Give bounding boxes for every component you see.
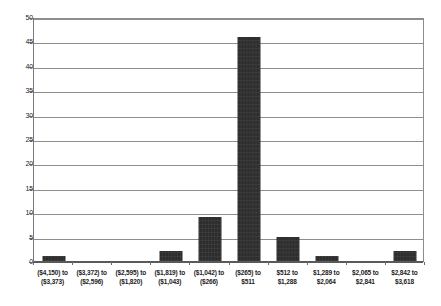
x-tick-mark — [385, 262, 386, 265]
bar-slot — [73, 19, 112, 261]
x-tick-mark — [189, 262, 190, 265]
x-axis-label-line1: ($3,372) to — [72, 268, 111, 277]
x-tick-mark — [111, 262, 112, 265]
x-axis-labels: ($4,150) to($3,373)($3,372) to($2,596)($… — [33, 268, 424, 294]
x-axis-label: ($265) to$511 — [229, 268, 268, 286]
bar-slot — [386, 19, 425, 261]
x-tick-mark — [33, 262, 34, 265]
x-axis-label-line2: ($266) — [189, 277, 228, 286]
x-axis-label-line2: ($1,043) — [150, 277, 189, 286]
x-axis-label: ($4,150) to($3,373) — [33, 268, 72, 286]
x-axis-label: $1,289 to$2,064 — [307, 268, 346, 286]
x-axis-label-line2: $3,618 — [385, 277, 424, 286]
x-axis-label-line2: $2,841 — [346, 277, 385, 286]
bar[interactable] — [277, 237, 300, 261]
bar-slot — [190, 19, 229, 261]
x-axis-label-line1: ($265) to — [229, 268, 268, 277]
x-axis-label-line2: ($3,373) — [33, 277, 72, 286]
x-tick-mark — [150, 262, 151, 265]
x-tick-mark — [268, 262, 269, 265]
bar-slot — [308, 19, 347, 261]
x-axis-label-line2: ($2,596) — [72, 277, 111, 286]
x-axis-label-line1: $1,289 to — [307, 268, 346, 277]
x-axis-label: ($1,819) to($1,043) — [150, 268, 189, 286]
x-axis-label: ($2,595) to($1,820) — [111, 268, 150, 286]
y-axis: 05101520253035404550 — [0, 0, 33, 306]
x-axis-label-line1: ($1,819) to — [150, 268, 189, 277]
x-axis-ticks — [33, 262, 424, 266]
bar[interactable] — [198, 217, 221, 261]
x-axis-label: $2,065 to$2,841 — [346, 268, 385, 286]
x-axis-label-line1: ($4,150) to — [33, 268, 72, 277]
x-axis-label-line2: $1,288 — [268, 277, 307, 286]
x-tick-mark — [424, 262, 425, 265]
bar[interactable] — [42, 256, 65, 261]
x-axis-label-line2: ($1,820) — [111, 277, 150, 286]
bar[interactable] — [316, 256, 339, 261]
bar-slot — [151, 19, 190, 261]
x-axis-label: $2,842 to$3,618 — [385, 268, 424, 286]
bar[interactable] — [159, 251, 182, 261]
x-axis-label: ($1,042) to($266) — [189, 268, 228, 286]
x-axis-label: ($3,372) to($2,596) — [72, 268, 111, 286]
bar-slot — [347, 19, 386, 261]
bar[interactable] — [394, 251, 417, 261]
x-axis-label-line1: $2,842 to — [385, 268, 424, 277]
x-axis-label: $512 to$1,288 — [268, 268, 307, 286]
x-tick-mark — [346, 262, 347, 265]
histogram-chart: 05101520253035404550 ($4,150) to($3,373)… — [0, 0, 441, 306]
x-tick-mark — [307, 262, 308, 265]
x-axis-label-line1: $2,065 to — [346, 268, 385, 277]
bar[interactable] — [238, 37, 261, 261]
x-tick-mark — [229, 262, 230, 265]
bar-slot — [230, 19, 269, 261]
bar-slot — [34, 19, 73, 261]
x-axis-label-line1: ($2,595) to — [111, 268, 150, 277]
x-axis-label-line1: ($1,042) to — [189, 268, 228, 277]
x-axis-label-line2: $2,064 — [307, 277, 346, 286]
bar-slot — [269, 19, 308, 261]
x-axis-label-line1: $512 to — [268, 268, 307, 277]
plot-area — [33, 18, 424, 262]
bar-slot — [112, 19, 151, 261]
x-axis-label-line2: $511 — [229, 277, 268, 286]
x-tick-mark — [72, 262, 73, 265]
